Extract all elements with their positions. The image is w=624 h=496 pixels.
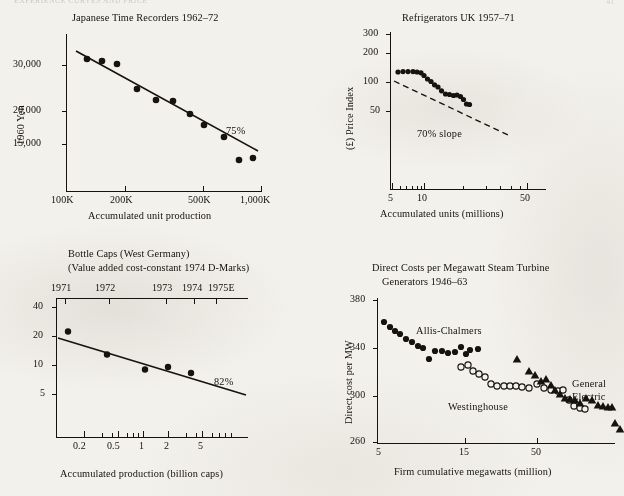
data-point — [188, 370, 194, 376]
data-point — [250, 155, 257, 162]
chart-title: Japanese Time Recorders 1962–72 — [72, 12, 218, 24]
data-point — [114, 61, 121, 68]
data-point — [470, 368, 476, 374]
x-axis-title: Accumulated units (millions) — [380, 208, 503, 219]
data-point — [381, 319, 387, 325]
data-point — [467, 102, 472, 107]
data-point — [519, 384, 525, 390]
data-point — [526, 385, 532, 391]
data-point — [201, 122, 208, 129]
x-axis-title: Firm cumulative megawatts (million) — [394, 466, 552, 477]
x-tick-label-3: 1,000K — [240, 194, 270, 205]
data-point — [501, 383, 507, 389]
series-value-added-cost — [65, 328, 194, 376]
data-point — [513, 355, 522, 363]
top-tick-label-4: 1975E — [208, 282, 235, 293]
series-time-recorder-price — [84, 56, 257, 164]
x-tick-label-2: 1 — [139, 440, 144, 451]
x-tick-label-1: 200K — [110, 194, 133, 205]
annotation-82-percent: 82% — [214, 376, 233, 387]
plot-area: 380 340 300 260 5 15 50 — [377, 298, 615, 444]
data-point — [445, 350, 451, 356]
annotation-allis-chalmers: Allis-Chalmers — [416, 325, 482, 336]
data-point — [165, 364, 171, 370]
x-axis-title: Accumulated unit production — [88, 210, 211, 221]
x-tick-label-1: 15 — [459, 446, 469, 457]
data-point — [482, 374, 488, 380]
data-point — [541, 385, 547, 391]
data-layer — [377, 298, 623, 446]
data-point — [387, 324, 393, 330]
plot-area: 30,000 20,000 15,000 100K 200K 500K 1,00… — [66, 34, 262, 192]
data-point — [458, 364, 464, 370]
data-point — [134, 86, 141, 93]
data-point — [397, 331, 403, 337]
figure-bottle-caps: Bottle Caps (West Germany) (Value added … — [0, 240, 330, 496]
figure-steam-turbine-generators: Direct Costs per Megawatt Steam Turbine … — [330, 256, 624, 496]
data-point — [153, 97, 160, 104]
data-point — [465, 362, 471, 368]
chart-subtitle: Generators 1946–63 — [382, 276, 468, 288]
data-point — [476, 371, 482, 377]
top-tick-label-2: 1973 — [152, 282, 172, 293]
top-tick-label-0: 1971 — [51, 282, 71, 293]
data-point — [236, 157, 243, 164]
plot-area: 300 200 100 50 5 10 50 — [390, 32, 546, 190]
data-point — [458, 344, 464, 350]
data-point — [439, 348, 445, 354]
y-tick-label-2: 10 — [33, 358, 43, 369]
y-tick-label-2: 100 — [363, 75, 378, 86]
chart-title: Bottle Caps (West Germany) — [68, 248, 190, 260]
data-point — [409, 339, 415, 345]
chart-subtitle: (Value added cost-constant 1974 D-Marks) — [68, 262, 249, 274]
data-point — [420, 345, 426, 351]
x-tick-label-1: 0.5 — [107, 440, 120, 451]
chart-title: Direct Costs per Megawatt Steam Turbine — [372, 262, 550, 274]
data-point — [187, 111, 194, 118]
y-axis-title: (£) Price Index — [344, 87, 355, 150]
data-point — [582, 406, 588, 412]
data-point — [461, 97, 466, 102]
data-point — [104, 351, 110, 357]
x-tick-label-3: 2 — [164, 440, 169, 451]
data-point — [142, 366, 148, 372]
y-tick-label-1: 200 — [363, 46, 378, 57]
data-point — [507, 383, 513, 389]
y-tick-label-3: 5 — [40, 387, 45, 398]
annotation-electric: Electric — [572, 391, 606, 402]
figure-refrigerators-uk: Refrigerators UK 1957–71 300 200 100 50 … — [330, 0, 624, 230]
x-tick-label-0: 5 — [376, 446, 381, 457]
data-point — [426, 356, 432, 362]
data-point — [405, 69, 410, 74]
trendline-70pct-slope — [394, 81, 508, 135]
y-tick-label-0: 30,000 — [13, 58, 41, 69]
annotation-general: General — [572, 378, 606, 389]
data-point — [475, 346, 481, 352]
data-point — [432, 348, 438, 354]
annotation-70-percent-slope: 70% slope — [417, 128, 462, 139]
data-point — [99, 58, 106, 65]
x-tick-label-0: 0.2 — [73, 440, 86, 451]
y-tick-label-0: 380 — [350, 293, 365, 304]
data-point — [542, 375, 551, 383]
data-point — [488, 381, 494, 387]
data-point — [494, 383, 500, 389]
data-point — [452, 349, 458, 355]
x-tick-label-0: 5 — [388, 192, 393, 203]
y-axis-title: 1960 Yen — [15, 105, 26, 145]
chart-title: Refrigerators UK 1957–71 — [402, 12, 515, 24]
series-price-index — [395, 69, 472, 107]
y-tick-label-3: 260 — [350, 435, 365, 446]
x-tick-label-2: 50 — [531, 446, 541, 457]
x-tick-label-2: 500K — [188, 194, 211, 205]
plot-area: 1971 1972 1973 1974 1975E 40 20 10 5 0.2… — [56, 298, 248, 438]
x-tick-label-2: 50 — [520, 192, 530, 203]
data-point — [525, 367, 534, 375]
series-general-electric — [513, 355, 624, 433]
x-tick-label-1: 10 — [417, 192, 427, 203]
y-tick-label-0: 40 — [33, 300, 43, 311]
x-tick-label-4: 5 — [198, 440, 203, 451]
top-tick-label-3: 1974 — [182, 282, 202, 293]
data-layer — [56, 298, 256, 438]
data-point — [65, 328, 71, 334]
